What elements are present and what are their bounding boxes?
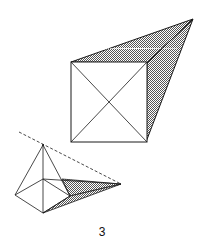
large-square [71,62,147,142]
geometry-diagram [0,0,203,243]
base-outline [15,179,70,213]
edge-apex-left [15,145,43,195]
figure-label: 3 [95,225,109,239]
small-pyramid [15,132,121,213]
apex-point [42,144,44,146]
edge-apex-right [43,145,70,196]
